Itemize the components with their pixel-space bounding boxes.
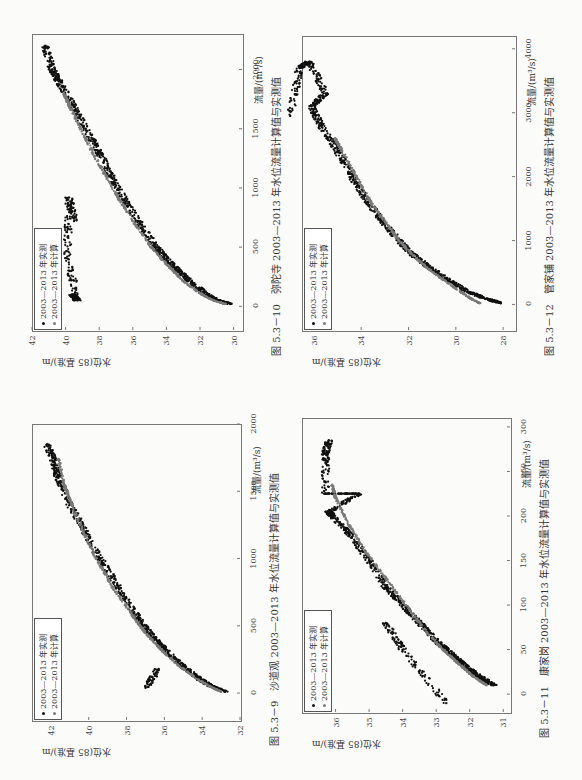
chart-legend: 2003—2013 年实测2003—2013 年计算 [304,610,332,712]
x-axis-title: 流量/(m³/s) [520,440,533,488]
y-tick-label: 35 [365,716,374,730]
y-axis-title: 水位(85 基准)/m [312,738,381,751]
y-tick-label: 34 [398,716,407,730]
x-tick-label: 300 [519,414,528,438]
measured-marker-icon [312,704,315,707]
x-tick-label: 100 [519,593,528,617]
legend-item: 2003—2013 年实测 [308,626,319,707]
y-tick-label: 31 [499,716,508,730]
legend-label: 2003—2013 年实测 [308,626,319,701]
legend-item: 2003—2013 年计算 [319,626,330,707]
computed-marker-icon [323,704,326,707]
legend-label: 2003—2013 年计算 [319,626,330,701]
y-tick-label: 32 [465,716,474,730]
x-tick-label: 150 [519,548,528,572]
figure-caption: 图 5.3－11 康家岗 2003—2013 年水位流量计算值与实测值 [536,459,551,738]
x-tick-label: 200 [519,504,528,528]
y-tick-label: 33 [432,716,441,730]
x-tick-label: 0 [519,682,528,706]
x-tick-label: 50 [519,637,528,661]
y-tick-label: 36 [331,716,340,730]
scatter-points [0,0,582,780]
